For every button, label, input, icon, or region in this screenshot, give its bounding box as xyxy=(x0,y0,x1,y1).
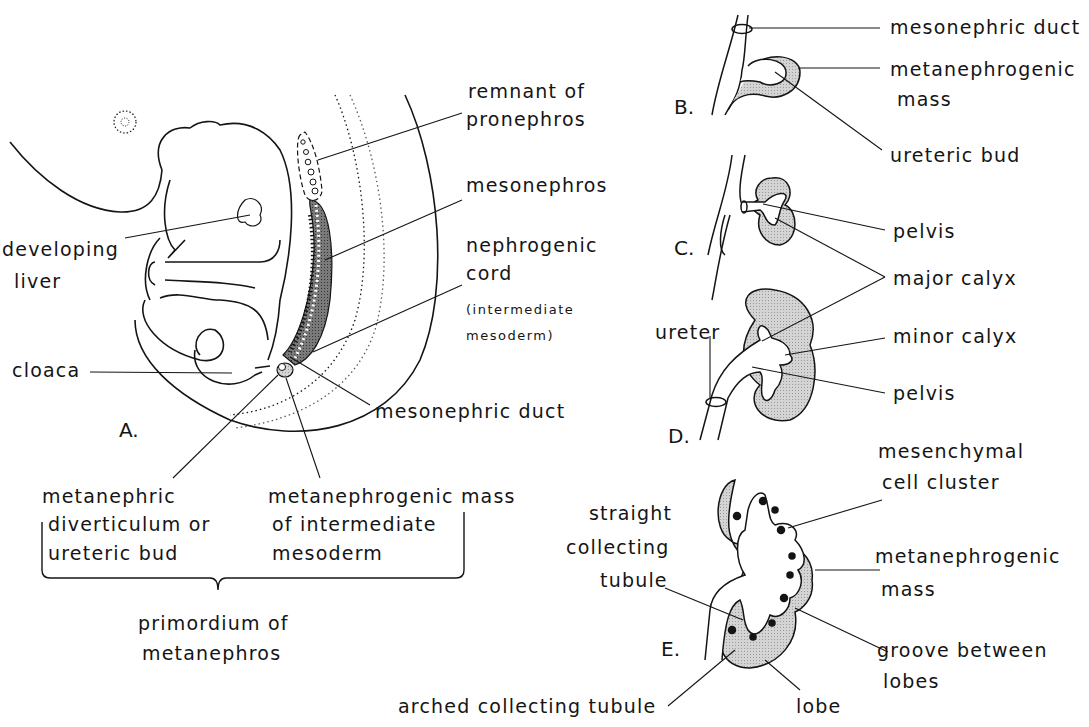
leader-e-groove xyxy=(795,608,888,652)
label-mesonephric-duct-b: mesonephric duct xyxy=(890,14,1080,40)
label-metanephrogenic-mass-a: metanephrogenic mass xyxy=(268,483,516,509)
label-developing: developing xyxy=(2,236,119,262)
leader-e-lobe xyxy=(765,660,800,690)
panel-c-drawing xyxy=(708,155,795,255)
label-mesoderm-a: mesoderm xyxy=(272,540,383,566)
panel-letter-a: A. xyxy=(119,418,139,442)
label-cell-cluster: cell cluster xyxy=(882,469,1000,495)
label-metanephros: metanephros xyxy=(142,640,281,666)
panel-b-drawing xyxy=(712,15,800,115)
label-pelvis-d: pelvis xyxy=(893,380,956,406)
label-mass-b: mass xyxy=(897,86,952,112)
panel-letter-b: B. xyxy=(674,95,694,119)
label-cloaca: cloaca xyxy=(12,357,80,383)
label-mesoderm: mesoderm) xyxy=(466,323,554,349)
label-liver: liver xyxy=(14,268,61,294)
label-pelvis-c: pelvis xyxy=(893,218,956,244)
label-groove-between: groove between xyxy=(877,637,1048,663)
label-primordium-of: primordium of xyxy=(138,610,289,636)
kidney-development-figure: A. B. C. D. E. remnant of pronephros mes… xyxy=(0,0,1089,727)
panel-letter-d: D. xyxy=(668,424,690,448)
label-ureteric-bud-a: ureteric bud xyxy=(48,540,178,566)
label-arched-collecting-tubule: arched collecting tubule xyxy=(398,693,656,719)
leader-e-mesenchymal xyxy=(788,500,882,528)
label-tubule: tubule xyxy=(600,567,668,593)
label-remnant-of: remnant of xyxy=(468,78,585,104)
leader-b-bud xyxy=(775,72,882,150)
label-metanephrogenic-e: metanephrogenic xyxy=(875,543,1061,569)
label-mesonephric-duct-a: mesonephric duct xyxy=(375,398,565,424)
label-pronephros: pronephros xyxy=(466,106,586,132)
label-mass-e: mass xyxy=(881,576,936,602)
panel-letter-e: E. xyxy=(661,637,680,661)
label-ureteric-bud-b: ureteric bud xyxy=(890,142,1020,168)
label-lobes: lobes xyxy=(883,668,940,694)
pronephros-remnant xyxy=(298,132,322,200)
panel-e-drawing xyxy=(705,480,812,668)
label-metanephrogenic-b: metanephrogenic xyxy=(890,56,1076,82)
label-minor-calyx: minor calyx xyxy=(893,323,1017,349)
label-mesenchymal: mesenchymal xyxy=(878,438,1024,464)
label-lobe: lobe xyxy=(796,693,841,719)
label-straight: straight xyxy=(589,500,672,526)
label-ureter: ureter xyxy=(655,319,720,345)
mesonephros-band xyxy=(283,200,332,365)
label-cord: cord xyxy=(466,260,512,286)
label-intermediate: (intermediate xyxy=(466,297,574,323)
panel-letter-c: C. xyxy=(674,236,694,260)
label-metanephric: metanephric xyxy=(42,483,176,509)
label-collecting: collecting xyxy=(566,534,670,560)
label-major-calyx: major calyx xyxy=(893,265,1017,291)
label-diverticulum-or: diverticulum or xyxy=(48,511,211,537)
label-mesonephros: mesonephros xyxy=(466,172,608,198)
label-nephrogenic: nephrogenic xyxy=(466,232,598,258)
metanephrogenic-mass-a xyxy=(277,363,293,377)
label-of-intermediate: of intermediate xyxy=(272,511,437,537)
